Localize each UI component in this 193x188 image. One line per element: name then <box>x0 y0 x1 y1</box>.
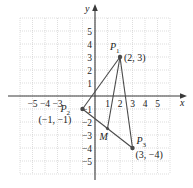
y-tick-label: 1 <box>87 79 92 89</box>
point-p1-coords: (2, 3) <box>124 52 146 64</box>
y-axis-arrow-icon <box>92 4 98 11</box>
x-tick-label: 3 <box>130 99 135 109</box>
y-tick-label: 3 <box>87 53 92 63</box>
x-tick-label: 1 <box>105 99 110 109</box>
y-tick-label: −3 <box>82 131 92 141</box>
x-tick-label: 4 <box>143 99 148 109</box>
point-m-label: M <box>99 131 109 142</box>
segment-P1-M <box>108 57 121 129</box>
point-p1-label: P1 <box>109 41 120 55</box>
y-axis-label: y <box>84 3 90 14</box>
point-p3-coords: (3, −4) <box>136 149 163 161</box>
point-p2-coords: (−1, −1) <box>39 114 72 126</box>
x-axis-label: x <box>179 97 185 108</box>
y-tick-label: 2 <box>87 66 92 76</box>
y-tick-label: −5 <box>82 157 92 167</box>
point-p1-marker <box>118 55 122 59</box>
x-tick-label: 2 <box>118 99 123 109</box>
y-tick-label: −2 <box>82 118 92 128</box>
coordinate-plane-diagram: x y −5−4−31234554321−1−2−3−4−5 P1(2, 3)P… <box>0 0 193 188</box>
x-tick-label: 5 <box>155 99 160 109</box>
y-tick-label: 5 <box>87 27 92 37</box>
y-tick-label: −4 <box>82 144 92 154</box>
point-p2-marker <box>80 107 84 111</box>
point-p3-label: P3 <box>136 135 147 149</box>
x-tick-label: −4 <box>40 99 50 109</box>
point-p3-marker <box>130 146 134 150</box>
y-tick-label: 4 <box>87 40 92 50</box>
x-tick-label: −5 <box>27 99 37 109</box>
